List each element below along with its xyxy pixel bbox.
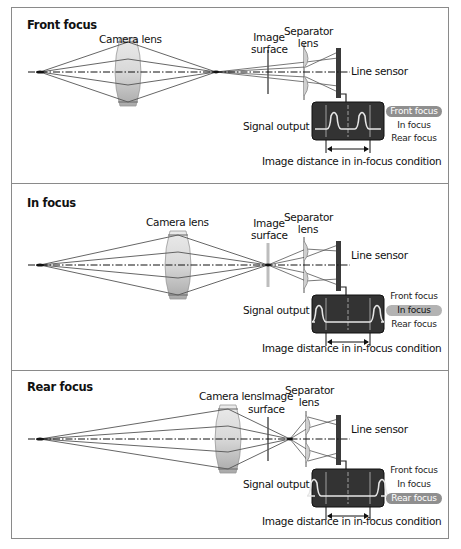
image-surface-label: Image surface [251,31,287,55]
sensor-cable [341,94,346,102]
image-surface-label: surface [248,391,284,415]
light-ray [306,77,338,92]
state-rear-focus: Rear focus [386,133,442,144]
light-ray [178,265,268,295]
focus-point [265,264,271,267]
separator-lens-label: Separator lens [284,25,332,49]
arrow-head-right [364,146,369,152]
object-point [36,437,44,440]
light-ray [268,257,306,265]
separator-lens-element [304,48,308,68]
light-ray [268,265,306,273]
light-ray [40,265,178,278]
camera-lens-label: Camera lens [99,33,162,45]
separator-lens-element [306,415,310,435]
separator-lens-element [306,443,310,463]
light-ray [290,439,308,461]
line-sensor-label: Line sensor [351,249,408,261]
signal-output-label: Signal output [243,304,309,316]
light-ray [40,252,178,265]
state-in-focus: In focus [386,120,442,131]
light-ray [290,428,308,439]
light-ray [178,252,268,265]
state-front-focus: Front focus [386,106,442,117]
state-front-focus: Front focus [386,465,442,476]
separator-lens-label: Separator lens [285,384,333,408]
state-in-focus: In focus [386,479,442,490]
separator-lens-element [304,76,308,96]
light-ray [306,58,338,62]
light-ray [216,67,306,72]
image-surface-label: Image surface [251,217,287,241]
line-sensor-icon [336,48,341,98]
light-ray [306,52,338,67]
autofocus-diagram: Front focus In focus Rear focus Camera l… [0,0,461,549]
light-ray [268,265,306,281]
arrow-head-left [327,146,332,152]
light-ray [40,426,228,439]
light-ray [178,265,268,278]
line-sensor-icon [336,241,341,291]
light-ray [40,235,178,265]
image-distance-label: Image distance in in-focus condition [262,342,441,354]
sensor-cable [341,461,346,469]
light-ray [268,249,306,265]
separator-lens-element [304,241,308,261]
line-sensor-label: Line sensor [351,65,408,77]
line-sensor-icon [336,415,341,465]
light-ray [290,439,308,450]
focus-point [287,438,293,441]
light-ray [216,72,306,82]
camera-lens-label: Camera lens [146,216,209,228]
separator-lens-element [304,269,308,289]
state-rear-focus: Rear focus [386,493,442,504]
light-ray [40,265,178,295]
state-in-focus: In focus [386,305,442,316]
line-sensor-label: Line sensor [351,423,408,435]
light-ray [290,417,308,439]
image-distance-label: Image distance in in-focus condition [262,515,441,527]
separator-lens-label: Separator lens [284,211,332,235]
object-point [36,263,44,266]
light-ray [40,409,228,439]
focus-point [213,71,219,74]
light-ray [216,62,306,72]
state-front-focus: Front focus [386,291,442,302]
light-ray [216,72,306,77]
image-distance-label: Image distance in in-focus condition [262,155,441,167]
light-ray [40,439,228,469]
state-rear-focus: Rear focus [386,319,442,330]
signal-output-label: Signal output [243,120,309,132]
light-ray [40,439,228,452]
sensor-cable [341,287,346,295]
object-point [36,70,44,73]
light-ray [306,82,338,86]
signal-output-label: Signal output [243,478,309,490]
